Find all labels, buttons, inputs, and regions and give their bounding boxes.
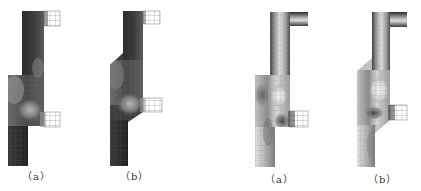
caption-right-b: （b） bbox=[368, 171, 397, 186]
panel-left-b bbox=[108, 11, 162, 166]
panel-right-a bbox=[254, 12, 308, 167]
panel-right-b bbox=[357, 12, 407, 167]
mesh-figures bbox=[0, 0, 421, 191]
caption-right-a: （a） bbox=[265, 171, 294, 186]
figure-container: （a） （b） （a） （b） bbox=[0, 0, 421, 191]
panel-left-a bbox=[4, 11, 60, 166]
caption-left-b: （b） bbox=[120, 168, 149, 183]
caption-left-a: （a） bbox=[22, 168, 51, 183]
